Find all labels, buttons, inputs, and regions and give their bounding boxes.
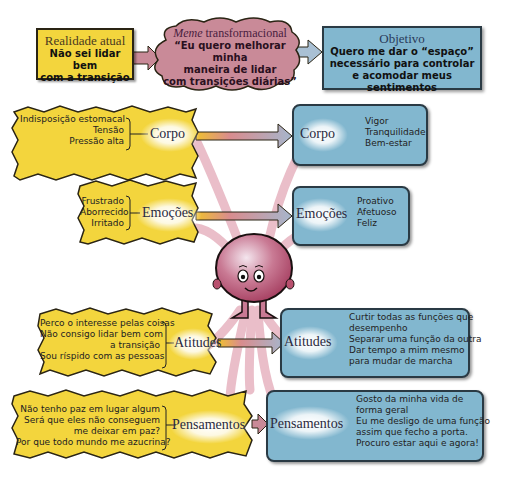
current-reality-box: Realidade atual Não sei lidar bem com a … [36,28,134,80]
list-item: Tranquilidade [365,127,426,138]
list-item: Proativo [357,196,396,207]
right-atitudes-items: Curtir todas as funções que desempenho S… [349,312,482,367]
goal-line2: necessário para controlar [324,58,480,70]
current-reality-line1: Não sei lidar bem [38,48,132,72]
meme-title-italic: Meme [173,26,202,40]
list-item: Separar uma função da outra [349,334,482,345]
meme-line1: “Eu quero melhorar minha [160,40,300,64]
list-item: forma geral [356,405,490,416]
right-corpo-items: Vigor Tranquilidade Bem-estar [365,116,426,149]
list-item: Tensão [20,125,124,136]
goal-title: Objetivo [324,31,480,46]
list-item: Indisposição estomacal [20,114,124,125]
current-reality-line2: com a transição [38,72,132,84]
right-pensamentos-label: Pensamentos [270,416,343,432]
left-pensamentos-label: Pensamentos [172,417,245,433]
list-item: Curtir todas as funções que [349,312,482,323]
left-pensamentos-items: Não tenho paz em lugar algum Será que el… [16,404,160,448]
goal-line3: e acomodar meus sentimentos [324,70,480,94]
arrow-emocoes [196,204,292,228]
list-item: Será que eles não conseguem [16,415,160,426]
list-item: Não consigo lidar bem com [40,329,160,340]
list-item: desempenho [349,323,482,334]
meme-line2: maneira de lidar [160,64,300,76]
list-item: Irritado [80,218,124,229]
meme-title-rest: transformacional [203,26,287,40]
right-emocoes-items: Proativo Afetuoso Feliz [357,196,396,229]
left-atitudes-items: Perco o interesse pelas coisas Não consi… [40,318,160,362]
list-item: Por que todo mundo me azucrina? [16,437,160,448]
meme-content: Meme transformacional “Eu quero melhorar… [160,26,300,88]
left-emocoes-label: Emoções [142,205,193,221]
list-item: Pressão alta [20,136,124,147]
list-item: Sou ríspido com as pessoas [40,351,160,362]
right-pensamentos-items: Gosto da minha vida de forma geral Eu me… [356,394,490,449]
list-item: Eu me desligo de uma função [356,416,490,427]
goal-line1: Quero me dar o “espaço” [324,46,480,58]
right-corpo-label: Corpo [300,126,335,142]
left-atitudes-label: Atitudes [174,335,221,351]
left-emocoes-items: Frustrado Aborrecido Irritado [80,196,124,229]
arrow-corpo [196,124,292,148]
character-figure [213,234,294,318]
list-item: Dar tempo a mim mesmo [349,345,482,356]
list-item: para mudar de marcha [349,356,482,367]
meme-title: Meme transformacional [160,26,300,40]
right-emocoes-label: Emoções [296,206,347,222]
list-item: Frustrado [80,196,124,207]
left-corpo-items: Indisposição estomacal Tensão Pressão al… [20,114,124,147]
list-item: Não tenho paz em lugar algum [16,404,160,415]
list-item: Bem-estar [365,138,426,149]
list-item: Gosto da minha vida de [356,394,490,405]
list-item: Vigor [365,116,426,127]
list-item: Feliz [357,218,396,229]
goal-box: Objetivo Quero me dar o “espaço” necessá… [322,26,482,90]
list-item: Procuro estar aqui e agora! [356,438,490,449]
list-item: me deixar em paz? [16,426,160,437]
current-reality-title: Realidade atual [38,33,132,48]
list-item: Aborrecido [80,207,124,218]
right-atitudes-label: Atitudes [284,334,331,350]
list-item: Afetuoso [357,207,396,218]
list-item: Perco o interesse pelas coisas [40,318,160,329]
list-item: a transição [40,340,160,351]
meme-line3: com transições diárias” [160,76,300,88]
left-corpo-label: Corpo [150,126,185,142]
list-item: assim que fecho a porta. [356,427,490,438]
